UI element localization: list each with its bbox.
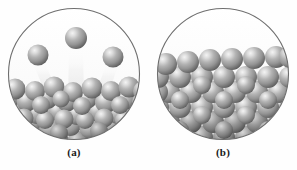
panel-a-illustration xyxy=(7,7,141,141)
escaping-sphere-left xyxy=(28,45,49,66)
panel-b-contents xyxy=(156,46,290,141)
packed-spheres-bulk xyxy=(7,77,141,142)
panel-a-circle xyxy=(7,7,141,141)
panel-a: (a) xyxy=(0,0,148,170)
panel-b-circle xyxy=(156,7,290,141)
escaping-sphere-center xyxy=(65,27,87,49)
panel-b-caption: (b) xyxy=(149,146,297,159)
lattice-spheres xyxy=(156,46,290,141)
panel-b: (b) xyxy=(149,0,297,170)
panel-b-illustration xyxy=(156,7,290,141)
figure-root: (a) xyxy=(0,0,297,170)
escaping-sphere-right xyxy=(103,47,124,68)
panel-a-caption: (a) xyxy=(0,146,148,159)
